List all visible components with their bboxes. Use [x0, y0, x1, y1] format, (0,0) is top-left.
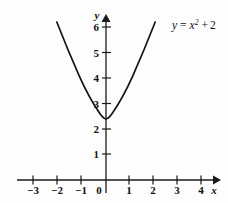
y-tick-label-5: 5 [94, 47, 100, 59]
y-tick-label-4: 4 [94, 72, 100, 84]
parabola-graph-figure: −3 −2 −1 0 1 2 3 4 1 2 3 4 5 6 x y y=x2+… [0, 0, 228, 203]
curve-equation-label: y=x2+2 [171, 18, 216, 33]
equation-exponent: 2 [195, 18, 199, 27]
equation-constant: 2 [210, 19, 216, 31]
equation-lhs: y [171, 19, 178, 32]
x-tick-label-4: 4 [198, 184, 204, 196]
y-tick-label-6: 6 [94, 21, 100, 33]
graph-canvas: −3 −2 −1 0 1 2 3 4 1 2 3 4 5 6 x y y=x2+… [0, 0, 228, 203]
x-axis-label: x [210, 184, 217, 196]
x-tick-label-minus1: −1 [75, 184, 87, 196]
x-tick-label-1: 1 [126, 184, 132, 196]
x-tick-label-minus3: −3 [27, 184, 39, 196]
y-tick-label-1: 1 [94, 148, 100, 160]
equation-equals: = [180, 19, 187, 31]
x-tick-label-0: 0 [96, 184, 102, 196]
y-axis-arrow-icon [102, 14, 111, 22]
x-tick-label-2: 2 [150, 184, 156, 196]
x-tick-label-minus2: −2 [51, 184, 63, 196]
x-tick-label-3: 3 [174, 184, 180, 196]
y-axis-label: y [93, 9, 100, 21]
y-tick-label-2: 2 [94, 123, 100, 135]
equation-plus: + [201, 19, 208, 31]
